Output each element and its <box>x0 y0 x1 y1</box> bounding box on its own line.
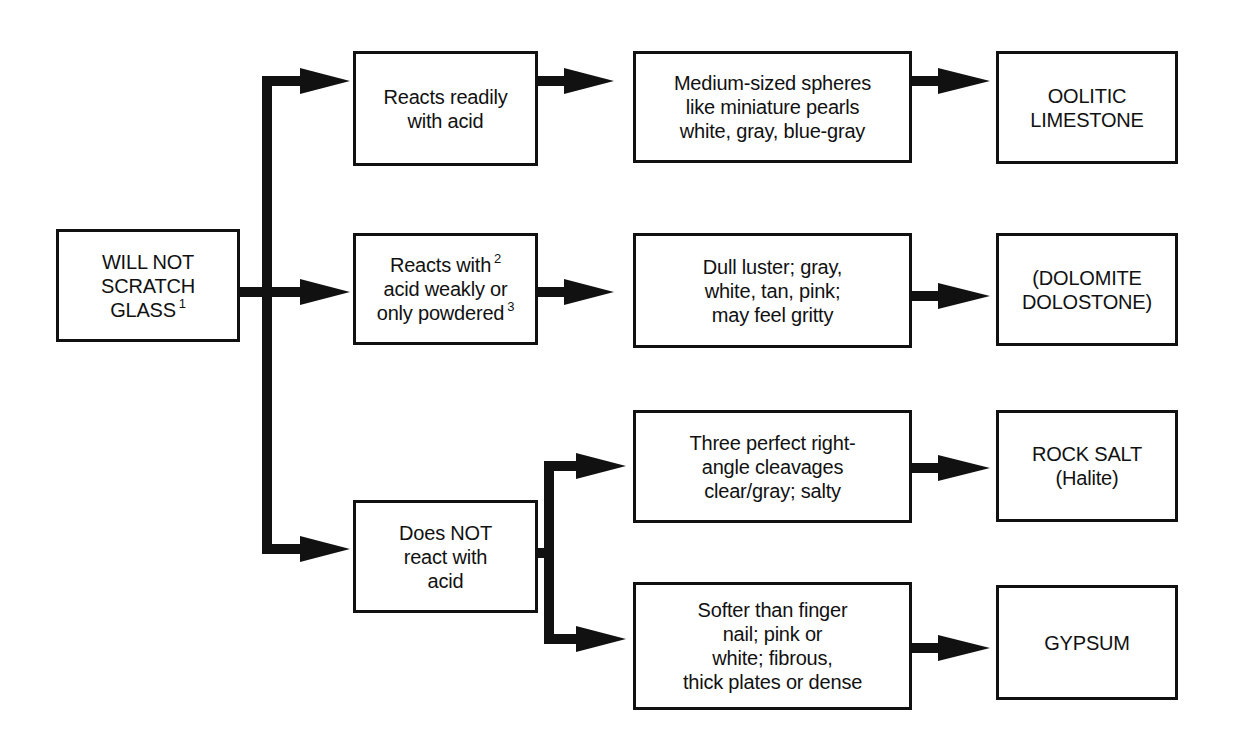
result-node-oolitic-limestone: OOLITIC LIMESTONE <box>996 51 1178 164</box>
test2-line-3-wrap: only powdered3 <box>377 301 515 325</box>
desc3-line-3: clear/gray; salty <box>704 479 841 503</box>
desc3-line-1: Three perfect right- <box>689 431 855 455</box>
root-line-1: WILL NOT <box>102 250 194 274</box>
arrow-icon <box>576 626 626 652</box>
test-node-no-reaction: Does NOT react with acid <box>353 500 538 613</box>
footnote-1: 1 <box>179 296 186 311</box>
arrow-icon <box>300 68 350 94</box>
test2-line-1-wrap: Reacts with2 <box>390 253 501 277</box>
arrow-icon <box>576 453 626 479</box>
arrow-icon <box>300 536 350 562</box>
desc1-line-2: like miniature pearls <box>686 95 860 119</box>
connector-split-trunk <box>544 461 554 644</box>
connector-desc1-res1 <box>910 76 940 86</box>
connector-desc4-res4 <box>910 643 940 653</box>
test2-line-3: only powdered <box>377 302 505 324</box>
description-node-gypsum: Softer than finger nail; pink or white; … <box>633 582 912 710</box>
test-node-reacts-readily: Reacts readily with acid <box>353 51 538 166</box>
arrow-icon <box>564 68 614 94</box>
desc4-line-4: thick plates or dense <box>683 670 862 694</box>
result4-line-1: GYPSUM <box>1044 631 1129 655</box>
root-line-2: SCRATCH <box>101 274 195 298</box>
connector-split-upper <box>544 461 578 471</box>
footnote-2: 2 <box>494 251 501 266</box>
desc2-line-1: Dull luster; gray, <box>703 255 842 279</box>
test2-line-1: Reacts with <box>390 254 491 276</box>
root-line-3: GLASS <box>110 299 176 321</box>
arrow-icon <box>938 635 990 661</box>
result-node-gypsum: GYPSUM <box>996 585 1178 700</box>
arrow-icon <box>300 279 350 305</box>
connector-split-lower <box>544 634 578 644</box>
result-node-rock-salt-halite: ROCK SALT (Halite) <box>996 410 1178 522</box>
result3-line-1: ROCK SALT <box>1032 442 1142 466</box>
result2-line-1: (DOLOMITE <box>1032 266 1141 290</box>
test-node-reacts-weakly: Reacts with2 acid weakly or only powdere… <box>353 233 538 345</box>
connector-branch-2 <box>262 287 302 297</box>
desc2-line-3: may feel gritty <box>712 303 833 327</box>
test1-line-1: Reacts readily <box>384 85 508 109</box>
connector-branch-1 <box>262 76 302 86</box>
test3-line-2: react with <box>404 545 488 569</box>
test1-line-2: with acid <box>407 109 483 133</box>
arrow-icon <box>938 283 990 309</box>
desc3-line-2: angle cleavages <box>702 455 844 479</box>
desc4-line-3: white; fibrous, <box>712 646 832 670</box>
description-node-oolitic: Medium-sized spheres like miniature pear… <box>633 51 912 163</box>
test2-line-2: acid weakly or <box>384 277 508 301</box>
arrow-icon <box>938 68 990 94</box>
result3-line-2: (Halite) <box>1056 466 1119 490</box>
connector-branch-3 <box>262 544 302 554</box>
footnote-3: 3 <box>507 299 514 314</box>
result-node-dolomite-dolostone: (DOLOMITE DOLOSTONE) <box>996 233 1178 346</box>
connector-main-trunk <box>262 76 272 554</box>
arrow-icon <box>564 279 614 305</box>
connector-test2-desc2 <box>536 287 566 297</box>
desc1-line-1: Medium-sized spheres <box>674 71 871 95</box>
result1-line-2: LIMESTONE <box>1030 108 1143 132</box>
arrow-icon <box>938 455 990 481</box>
desc1-line-3: white, gray, blue-gray <box>680 119 865 143</box>
description-node-rock-salt: Three perfect right- angle cleavages cle… <box>633 410 912 523</box>
connector-desc3-res3 <box>910 463 940 473</box>
result1-line-1: OOLITIC <box>1048 84 1127 108</box>
test3-line-3: acid <box>428 569 464 593</box>
connector-desc2-res2 <box>910 291 940 301</box>
root-node: WILL NOT SCRATCH GLASS1 <box>56 229 240 342</box>
desc2-line-2: white, tan, pink; <box>705 279 841 303</box>
connector-test1-desc1 <box>536 76 566 86</box>
desc4-line-1: Softer than finger <box>698 598 848 622</box>
description-node-dolomite: Dull luster; gray, white, tan, pink; may… <box>633 233 912 348</box>
desc4-line-2: nail; pink or <box>723 622 823 646</box>
test3-line-1: Does NOT <box>399 521 492 545</box>
result2-line-2: DOLOSTONE) <box>1022 290 1152 314</box>
root-line-3-wrap: GLASS1 <box>110 298 186 322</box>
